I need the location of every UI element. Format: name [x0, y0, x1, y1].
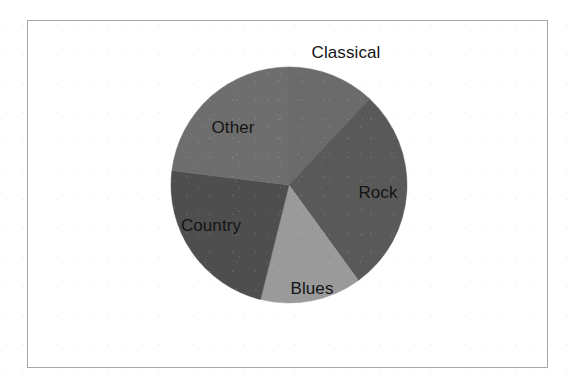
pie-label-classical: Classical — [312, 44, 381, 61]
pie-chart-figure: ClassicalRockBluesCountryOther — [0, 0, 579, 392]
pie-chart-canvas — [0, 0, 579, 392]
pie-label-blues: Blues — [290, 280, 333, 297]
pie-label-rock: Rock — [358, 184, 397, 201]
pie-label-country: Country — [181, 217, 241, 234]
pie-label-other: Other — [211, 119, 254, 136]
